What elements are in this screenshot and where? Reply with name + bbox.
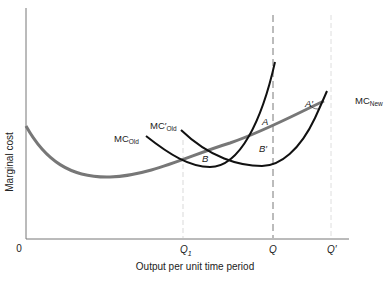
tick-q: Q — [269, 244, 277, 255]
mc-new-curve — [26, 101, 324, 177]
marginal-cost-chart: Marginal cost Output per unit time perio… — [0, 0, 389, 281]
origin-label: 0 — [16, 243, 22, 254]
mc-old-label: MCOld — [114, 133, 139, 145]
point-a-prime-label: A′ — [304, 98, 314, 109]
x-axis-label: Output per unit time period — [136, 261, 254, 272]
y-axis-label: Marginal cost — [4, 132, 15, 192]
tick-q-prime: Q′ — [327, 244, 338, 255]
point-b-label: B — [202, 153, 209, 164]
point-a-label: A — [261, 116, 268, 127]
mc-new-label: MCNew — [355, 95, 383, 107]
point-b-prime-label: B′ — [259, 143, 268, 154]
mc-old-prime-label: MC′Old — [150, 120, 177, 132]
tick-q1: Q1 — [180, 244, 192, 257]
